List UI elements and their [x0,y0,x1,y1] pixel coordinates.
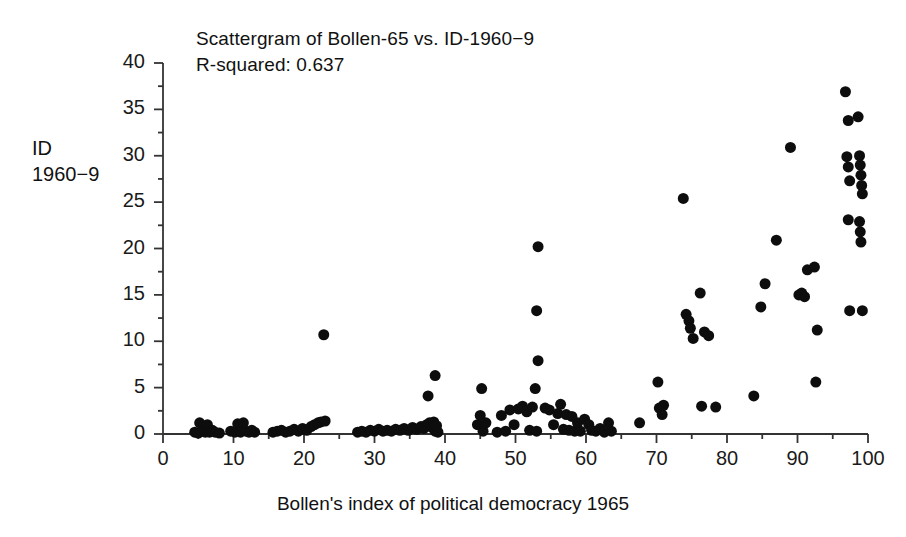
data-point [853,111,864,122]
data-point [748,390,759,401]
data-point [320,416,331,427]
data-point [530,383,541,394]
data-point [652,377,663,388]
data-point [432,427,443,438]
data-point [710,402,721,413]
data-point [531,426,542,437]
data-point [531,305,542,316]
data-point [696,401,707,412]
data-point [799,291,810,302]
data-point [527,402,538,413]
data-point [840,86,851,97]
data-point [843,115,854,126]
plot-area [0,0,906,537]
data-point [703,330,714,341]
data-point [841,151,852,162]
data-point [695,288,706,299]
data-point [809,262,820,273]
data-point [480,417,491,428]
data-point [755,301,766,312]
data-point [318,329,329,340]
data-point [855,160,866,171]
data-point [760,278,771,289]
data-point [423,390,434,401]
data-point [857,188,868,199]
data-point [509,419,520,430]
data-point [658,400,669,411]
data-point [771,235,782,246]
data-point [555,399,566,410]
data-point [810,377,821,388]
data-point [843,214,854,225]
axis-spines [163,63,868,434]
data-point [854,216,865,227]
data-point [857,305,868,316]
data-point [249,427,260,438]
data-point [855,226,866,237]
data-point [430,370,441,381]
data-point [688,333,699,344]
data-point [843,161,854,172]
data-point [855,237,866,248]
data-point [533,241,544,252]
data-point [657,409,668,420]
data-point [855,170,866,181]
data-point [844,305,855,316]
data-point [634,417,645,428]
data-point [844,175,855,186]
data-point [533,355,544,366]
data-point [685,323,696,334]
scatter-chart-figure: Scattergram of Bollen-65 vs. ID-1960−9 R… [0,0,906,537]
data-point [606,426,617,437]
data-point [548,419,559,430]
data-point [812,325,823,336]
data-point [785,142,796,153]
data-points [189,86,868,438]
data-point [678,193,689,204]
data-point [214,428,225,439]
axis-ticks [154,63,868,443]
data-point [476,383,487,394]
